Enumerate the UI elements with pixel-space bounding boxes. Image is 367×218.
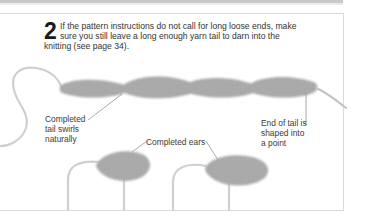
pointer-ear-right: [206, 141, 218, 160]
label-line: shaped into: [261, 128, 307, 138]
label-end-of-tail: End of tail is shaped into a point: [261, 118, 307, 148]
label-line: End of tail is: [261, 118, 307, 128]
yarn-ear-right-1: [173, 165, 206, 211]
label-line: a point: [261, 138, 307, 148]
knitted-ear-left: [96, 151, 150, 181]
label-completed-ears: Completed ears: [146, 137, 205, 147]
label-tail-swirls: Completed tail swirls naturally: [45, 114, 86, 144]
knitting-illustration: [0, 0, 367, 218]
yarn-right-end: [316, 88, 346, 108]
yarn-ear-left-1: [68, 162, 100, 211]
book-page: 2 If the pattern instructions do not cal…: [0, 0, 367, 218]
pointer-ear-left: [132, 141, 147, 152]
pointer-tail-swirls: [88, 94, 122, 120]
label-line: Completed: [45, 114, 86, 124]
label-line: naturally: [45, 134, 86, 144]
label-line: tail swirls: [45, 124, 86, 134]
knitted-tail: [60, 76, 317, 98]
knitted-ear-right: [205, 155, 268, 185]
